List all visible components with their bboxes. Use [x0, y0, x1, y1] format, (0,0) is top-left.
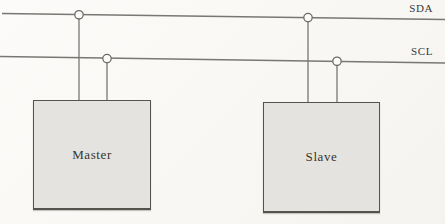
sda-bus-label: SDA: [399, 2, 433, 14]
junction-dot-master-sda-icon: [75, 11, 83, 19]
scl-bus-label: SCL: [399, 45, 433, 57]
slave-device-box: Slave: [263, 102, 380, 213]
master-device-box: Master: [33, 100, 151, 210]
i2c-bus-diagram: SDA SCL Master Slave: [0, 0, 445, 224]
junction-dot-slave-sda-icon: [304, 13, 312, 21]
scl-bus-line: [0, 57, 445, 64]
slave-device-label: Slave: [306, 149, 338, 165]
master-device-label: Master: [72, 147, 112, 163]
junction-dot-master-scl-icon: [103, 54, 111, 62]
junction-dot-slave-scl-icon: [333, 57, 341, 65]
sda-bus-line: [2, 14, 445, 20]
